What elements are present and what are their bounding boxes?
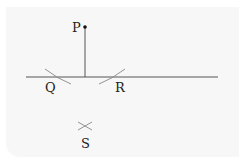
cross-mark-s <box>78 122 92 130</box>
point-p <box>83 25 87 29</box>
label-p: P <box>72 20 81 35</box>
construction-diagram: P Q R S <box>0 0 239 162</box>
label-q: Q <box>45 80 56 95</box>
label-s: S <box>81 136 90 151</box>
label-r: R <box>115 80 126 95</box>
